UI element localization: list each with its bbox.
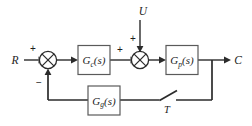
wire-plant-to-output <box>198 57 231 64</box>
wire-summer2-to-plant <box>149 57 166 64</box>
sign-disturbance-plus: + <box>130 33 136 44</box>
summer-2 <box>131 51 148 68</box>
block-plant-name: G <box>170 54 178 66</box>
wire-summer1-to-controller <box>57 57 78 64</box>
sampler-period-label: T <box>164 104 171 115</box>
sign-controller-out-plus: + <box>117 44 123 55</box>
sign-reference-plus: + <box>30 43 36 54</box>
block-controller-argument: (s) <box>94 54 106 67</box>
signal-label-output: C <box>234 54 242 66</box>
wire-disturbance-to-summer2 <box>137 20 144 53</box>
signal-label-disturbance: U <box>139 5 148 17</box>
block-feedback-argument: (s) <box>104 95 116 108</box>
sign-feedback-minus: − <box>36 77 42 88</box>
summer-1 <box>39 51 56 68</box>
block-controller-name: G <box>83 54 91 66</box>
signal-label-reference: R <box>10 54 18 66</box>
block-feedback-name: G <box>92 95 100 107</box>
block-diagram-svg: Gc(s) Gp(s) Gg(s) R U C T + − + + <box>0 0 252 126</box>
block-diagram-canvas: Gc(s) Gp(s) Gg(s) R U C T + − + + <box>0 0 252 126</box>
block-plant-argument: (s) <box>182 54 194 67</box>
sampler-switch[interactable] <box>160 91 178 101</box>
